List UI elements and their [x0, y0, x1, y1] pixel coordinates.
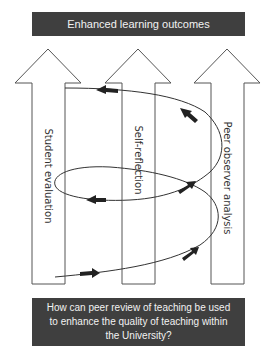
- flow-arrow-icon: [96, 85, 118, 94]
- label-peer-observer-analysis: Peer observer analysis: [222, 121, 233, 234]
- flow-arrow-icon: [80, 268, 100, 278]
- question-line: to enhance the quality of teaching withi…: [32, 315, 245, 329]
- question-line: How can peer review of teaching be used: [32, 301, 245, 315]
- label-self-reflection: Self-reflection: [133, 125, 144, 194]
- question-box: How can peer review of teaching be used …: [32, 298, 245, 346]
- flow-arrow-icon: [182, 247, 199, 261]
- question-line: the University?: [32, 329, 245, 343]
- flow-arrow-icon: [180, 108, 198, 123]
- label-student-evaluation: Student evaluation: [43, 128, 54, 223]
- flow-arrow-icon: [86, 195, 106, 204]
- flow-arrow-icon: [178, 181, 196, 194]
